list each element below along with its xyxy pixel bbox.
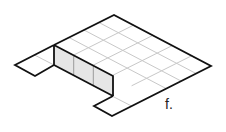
isometric-net-diagram [0, 0, 226, 132]
figure-label: f. [165, 96, 173, 112]
